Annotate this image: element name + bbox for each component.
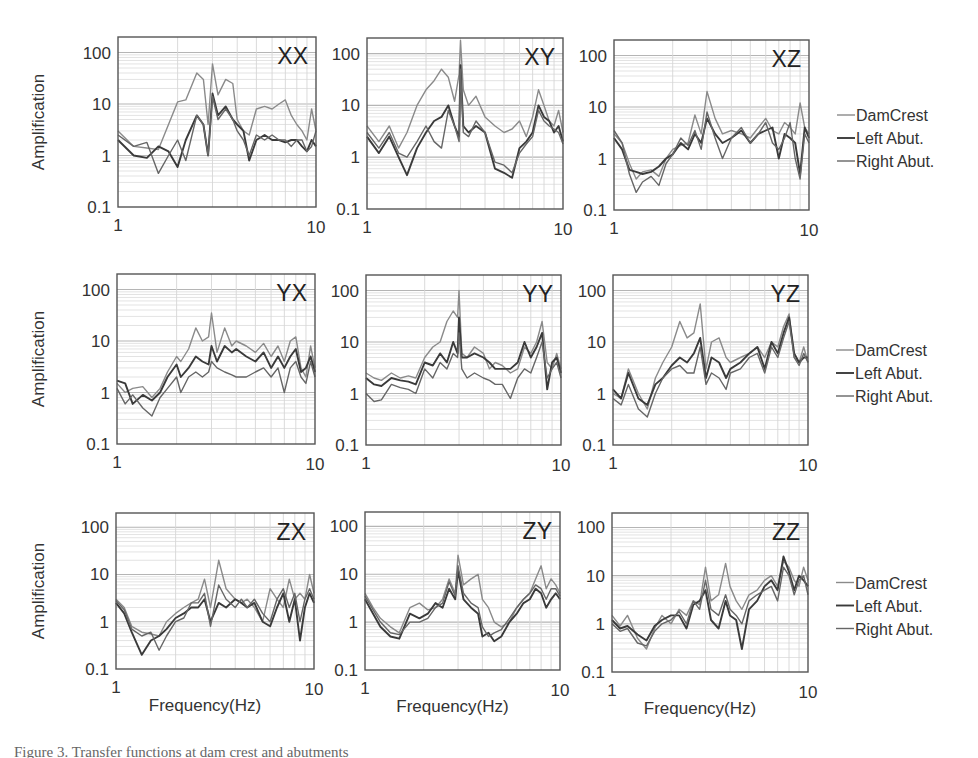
y-tick-label: 100 [83, 44, 111, 63]
y-tick-label: 10 [341, 96, 360, 115]
x-tick-label: 1 [362, 218, 371, 237]
y-tick-label: 1 [349, 613, 358, 632]
y-axis-label: Amplification [29, 311, 48, 407]
legend-entry: Left Abut. [855, 598, 923, 615]
legend-entry: DamCrest [855, 575, 928, 592]
y-tick-label: 10 [90, 565, 109, 584]
plot-xz: XZ1001010.1110DamCrestLeft Abut.Right Ab… [579, 40, 935, 240]
plot-yx: YX1001010.1110Amplification [29, 274, 324, 474]
x-axis-label: Frequency(Hz) [644, 699, 756, 718]
series-left-abut [613, 317, 808, 405]
y-tick-label: 100 [82, 281, 110, 300]
x-tick-label: 10 [306, 455, 325, 474]
y-tick-label: 1 [101, 384, 110, 403]
x-tick-label: 1 [608, 454, 617, 473]
plot-xy: XY1001010.1110 [332, 38, 573, 239]
y-tick-label: 100 [330, 517, 358, 536]
x-tick-label: 1 [112, 453, 121, 472]
x-tick-label: 10 [551, 681, 570, 700]
y-tick-label: 100 [579, 47, 607, 66]
panel-title: ZX [277, 519, 306, 545]
series-damcrest [614, 92, 809, 180]
y-tick-label: 100 [577, 518, 605, 537]
panel-title: XX [277, 43, 308, 69]
plot-zy: ZY1001010.1110Frequency(Hz) [330, 512, 570, 716]
y-tick-label: 10 [92, 95, 111, 114]
x-tick-label: 1 [609, 219, 618, 238]
panel-title: ZY [523, 518, 552, 544]
x-tick-label: 10 [799, 456, 818, 475]
x-tick-label: 1 [607, 681, 616, 700]
y-tick-label: 0.1 [335, 436, 359, 455]
y-tick-label: 0.1 [581, 663, 605, 682]
y-tick-label: 10 [91, 332, 110, 351]
x-tick-label: 10 [800, 221, 819, 240]
y-tick-label: 0.1 [336, 200, 360, 219]
panel-title: XY [524, 44, 555, 70]
x-tick-label: 1 [361, 454, 370, 473]
series-right-abut [366, 333, 561, 402]
y-tick-label: 10 [340, 333, 359, 352]
y-axis-label: Amplification [29, 74, 48, 170]
panel-title: YX [276, 280, 307, 306]
y-tick-label: 100 [578, 282, 606, 301]
x-tick-label: 10 [307, 218, 326, 237]
x-tick-label: 10 [305, 680, 324, 699]
y-tick-label: 1 [597, 385, 606, 404]
legend-entry: DamCrest [855, 342, 928, 359]
panel-title: YY [522, 281, 553, 307]
legend-entry: Right Abut. [856, 153, 934, 170]
x-tick-label: 1 [360, 679, 369, 698]
panel-title: ZZ [772, 519, 800, 545]
figure-caption: Figure 3. Transfer functions at dam cres… [14, 744, 349, 758]
plot-zx: ZX1001010.1110AmplificationFrequency(Hz) [29, 513, 323, 715]
legend-entry: Left Abut. [856, 130, 924, 147]
y-axis-label: Amplification [29, 543, 48, 639]
y-tick-label: 10 [339, 565, 358, 584]
y-tick-label: 1 [598, 150, 607, 169]
y-tick-label: 1 [350, 385, 359, 404]
plot-zz: ZZ1001010.1110Frequency(Hz)DamCrestLeft … [577, 513, 934, 718]
y-tick-label: 1 [102, 147, 111, 166]
panel-title: YZ [771, 281, 800, 307]
x-tick-label: 10 [799, 683, 818, 702]
y-tick-label: 10 [587, 333, 606, 352]
legend-entry: DamCrest [856, 107, 929, 124]
x-axis-label: Frequency(Hz) [396, 697, 508, 716]
y-tick-label: 0.1 [582, 436, 606, 455]
x-axis-label: Frequency(Hz) [149, 696, 261, 715]
y-tick-label: 100 [331, 282, 359, 301]
y-tick-label: 10 [588, 98, 607, 117]
y-tick-label: 100 [81, 518, 109, 537]
x-tick-label: 1 [113, 216, 122, 235]
y-tick-label: 1 [351, 148, 360, 167]
series-left-abut [367, 65, 563, 178]
y-tick-label: 0.1 [87, 198, 111, 217]
y-tick-label: 1 [100, 613, 109, 632]
y-tick-label: 0.1 [86, 435, 110, 454]
y-tick-label: 1 [596, 615, 605, 634]
transfer-function-figure: XX1001010.1110AmplificationXY1001010.111… [0, 0, 978, 758]
plot-yy: YY1001010.1110 [331, 275, 571, 475]
x-tick-label: 1 [111, 678, 120, 697]
legend: DamCrestLeft Abut.Right Abut. [837, 107, 934, 170]
y-tick-label: 0.1 [85, 660, 109, 679]
legend: DamCrestLeft Abut.Right Abut. [836, 575, 933, 638]
plot-yz: YZ1001010.1110DamCrestLeft Abut.Right Ab… [578, 275, 934, 475]
plot-xx: XX1001010.1110Amplification [29, 37, 325, 237]
legend: DamCrestLeft Abut.Right Abut. [836, 342, 933, 405]
y-tick-label: 0.1 [583, 201, 607, 220]
legend-entry: Right Abut. [855, 621, 933, 638]
y-tick-label: 10 [586, 567, 605, 586]
legend-entry: Right Abut. [855, 388, 933, 405]
x-tick-label: 10 [552, 456, 571, 475]
legend-entry: Left Abut. [855, 365, 923, 382]
y-tick-label: 0.1 [334, 661, 358, 680]
panel-title: XZ [772, 46, 801, 72]
y-tick-label: 100 [332, 45, 360, 64]
x-tick-label: 10 [554, 220, 573, 239]
